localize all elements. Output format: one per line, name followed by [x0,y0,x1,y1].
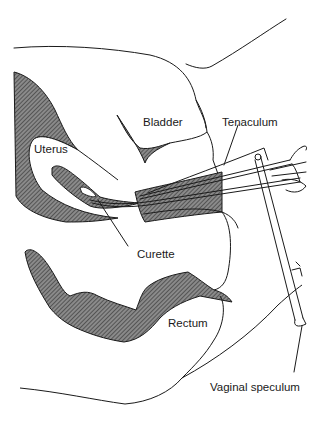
skin-outline [186,19,286,68]
label-bladder: Bladder [143,117,183,129]
anatomical-diagram: Bladder Tenaculum Uterus Curette Rectum … [0,0,331,428]
diagram-illustration [0,0,331,428]
hand-outline [282,179,306,192]
label-vaginal-speculum: Vaginal speculum [210,382,300,394]
speculum-handle-tip [295,318,306,326]
handle-lines [270,162,306,176]
perineum-skin [182,285,302,378]
label-rectum: Rectum [168,318,208,330]
buttock-outline [20,378,182,404]
label-uterus: Uterus [34,144,68,156]
bladder-outline [170,100,218,174]
speculum-screw [292,262,302,276]
speculum-pointer [294,326,302,372]
label-tenaculum: Tenaculum [222,117,278,129]
speculum-pivot [255,154,261,160]
posterior-vaginal-wall [214,212,230,290]
label-curette: Curette [137,249,175,261]
